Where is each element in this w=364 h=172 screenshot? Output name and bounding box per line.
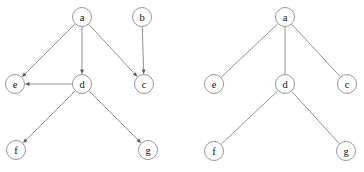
node-right-graph-c[interactable]: c	[338, 75, 357, 94]
edge-left-graph-d-g	[89, 91, 139, 141]
edge-right-graph-a-e	[221, 24, 277, 77]
node-label-f: f	[14, 145, 18, 156]
graph-figure: abedcfgaedcfg	[0, 0, 364, 172]
node-left-graph-a[interactable]: a	[73, 8, 92, 27]
edge-left-graph-b-c	[142, 27, 143, 72]
node-label-c: c	[345, 79, 350, 90]
edge-left-graph-a-e	[24, 24, 75, 75]
arrowhead-left-graph-d-e	[25, 82, 30, 86]
node-right-graph-g[interactable]: g	[337, 142, 356, 161]
node-label-d: d	[79, 79, 85, 90]
node-label-g: g	[145, 145, 151, 156]
node-left-graph-f[interactable]: f	[7, 141, 26, 160]
edge-right-graph-a-c	[292, 24, 340, 76]
arrowhead-left-graph-b-c	[142, 70, 146, 75]
node-label-a: a	[283, 12, 288, 23]
node-label-g: g	[343, 146, 349, 157]
node-left-graph-e[interactable]: e	[6, 75, 25, 94]
node-left-graph-c[interactable]: c	[135, 75, 154, 94]
node-label-f: f	[212, 146, 216, 157]
node-right-graph-d[interactable]: d	[276, 75, 295, 94]
edge-right-graph-d-g	[292, 91, 340, 143]
edge-left-graph-a-c	[89, 24, 136, 75]
node-label-c: c	[142, 79, 147, 90]
edge-right-graph-d-f	[221, 91, 277, 144]
node-left-graph-g[interactable]: g	[139, 141, 158, 160]
node-right-graph-a[interactable]: a	[276, 8, 295, 27]
node-label-d: d	[282, 79, 288, 90]
arrowhead-left-graph-a-d	[80, 70, 84, 75]
node-right-graph-f[interactable]: f	[205, 142, 224, 161]
node-label-e: e	[13, 79, 18, 90]
graph-canvas: abedcfgaedcfg	[0, 0, 364, 172]
node-left-graph-b[interactable]: b	[133, 8, 152, 27]
node-label-e: e	[212, 79, 217, 90]
node-right-graph-e[interactable]: e	[205, 75, 224, 94]
node-label-a: a	[80, 12, 85, 23]
node-label-b: b	[139, 12, 144, 23]
node-left-graph-d[interactable]: d	[73, 75, 92, 94]
edge-left-graph-d-f	[25, 91, 75, 141]
